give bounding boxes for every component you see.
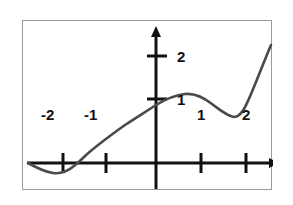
graph-plot xyxy=(23,21,273,191)
x-tick-label-neg1: -1 xyxy=(84,107,97,122)
x-tick-label-neg2: -2 xyxy=(41,107,54,122)
figure-frame: -2 -1 1 2 1 2 xyxy=(22,20,272,190)
x-tick-label-pos2: 2 xyxy=(242,107,250,122)
y-axis-up-arrow-icon xyxy=(151,26,161,37)
y-tick-label-2: 2 xyxy=(177,49,185,64)
x-tick-label-pos1: 1 xyxy=(197,107,205,122)
figure-page: -2 -1 1 2 1 2 xyxy=(0,0,293,205)
x-axis-right-arrow-icon xyxy=(269,158,273,168)
y-tick-label-1: 1 xyxy=(177,92,185,107)
